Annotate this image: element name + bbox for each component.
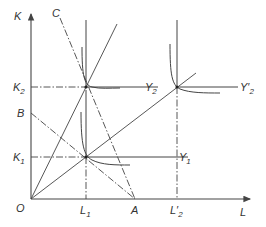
point-y2 bbox=[84, 85, 87, 88]
isoquant-y2prime-fixed bbox=[177, 20, 238, 87]
point-c-label: C bbox=[52, 7, 60, 19]
isoquant-y2-curve bbox=[82, 47, 120, 88]
y2prime-label: Y′2 bbox=[240, 81, 254, 96]
k-axis-label: K bbox=[14, 10, 22, 22]
b-label: B bbox=[17, 107, 24, 119]
y2-label: Y2 bbox=[145, 81, 157, 96]
isoquant-y2-fixed bbox=[86, 20, 158, 87]
l2prime-label: L′2 bbox=[170, 204, 183, 219]
isoquant-diagram: K L O C K2 B K1 L1 A L′2 Y1 Y2 Y′2 bbox=[0, 0, 266, 227]
l1-label: L1 bbox=[80, 204, 91, 219]
point-y2prime bbox=[175, 85, 178, 88]
a-label: A bbox=[130, 204, 138, 216]
isoquant-y1-fixed bbox=[86, 90, 188, 157]
isocost-ba bbox=[31, 113, 135, 199]
expansion-ray-steep bbox=[31, 24, 117, 199]
y1-label: Y1 bbox=[179, 151, 191, 166]
point-y1 bbox=[84, 155, 87, 158]
k1-label: K1 bbox=[13, 151, 25, 166]
origin-label: O bbox=[16, 202, 25, 214]
isocost-ca bbox=[60, 18, 135, 199]
expansion-ray-low bbox=[31, 73, 196, 199]
k2-label: K2 bbox=[13, 81, 25, 96]
l-axis-label: L bbox=[240, 206, 246, 218]
